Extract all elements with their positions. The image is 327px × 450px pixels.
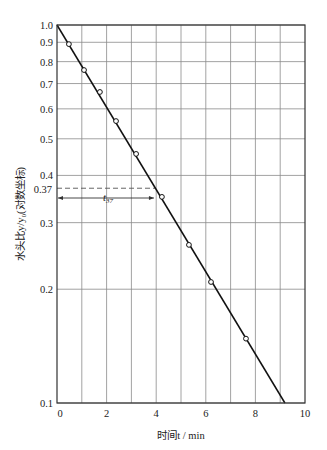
- y-tick-label: 0.7: [40, 79, 53, 90]
- y-tick-label: 0.6: [40, 104, 53, 115]
- y-axis-label: 水头比y/y₀(对数坐标): [14, 166, 27, 261]
- data-point: [209, 280, 214, 285]
- x-tick-label: 4: [154, 408, 160, 419]
- x-tick-label: 6: [203, 408, 208, 419]
- y-tick-label: 0.5: [40, 134, 53, 145]
- y-tick-label: 0.3: [40, 218, 53, 229]
- data-point: [98, 90, 103, 95]
- data-point: [67, 42, 72, 47]
- t37-sub: 37: [105, 197, 114, 205]
- x-axis-label: 时间t / min: [157, 429, 205, 441]
- y-tick-label: 0.1: [40, 398, 53, 409]
- arrow-head-left: [58, 196, 63, 200]
- grid: [57, 25, 305, 403]
- arrow-head-right: [149, 196, 154, 200]
- x-tick-label: 8: [253, 408, 258, 419]
- fitted-line-path: [57, 25, 285, 403]
- fitted-line: [57, 25, 285, 403]
- y-tick-labels: 1.00.90.80.70.60.50.40.30.20.1: [40, 20, 54, 409]
- data-point: [160, 194, 165, 199]
- data-point: [244, 336, 249, 341]
- y-tick-label: 0.8: [40, 57, 53, 68]
- y-tick-label: 0.9: [40, 37, 53, 48]
- data-point: [114, 119, 119, 124]
- x-tick-labels: 0246810: [57, 408, 310, 419]
- t37-label: t37: [103, 191, 114, 205]
- y-tick-label: 0.2: [40, 284, 53, 295]
- annot-037-label: 0.37: [34, 184, 52, 195]
- data-point: [187, 242, 192, 247]
- y-tick-label: 0.4: [40, 170, 54, 181]
- data-point: [82, 68, 87, 73]
- x-tick-label: 0: [57, 408, 62, 419]
- data-point: [134, 152, 139, 157]
- y-tick-label: 1.0: [40, 20, 53, 31]
- x-tick-label: 2: [104, 408, 109, 419]
- x-tick-label: 10: [300, 408, 311, 419]
- chart: 1.00.90.80.70.60.50.40.30.20.1 0246810 0…: [0, 0, 327, 450]
